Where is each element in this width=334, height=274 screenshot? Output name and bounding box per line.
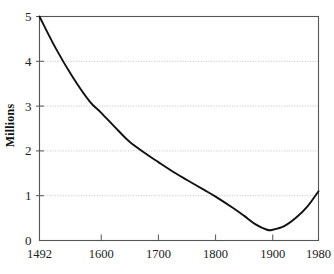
x-tick-label-1492: 1492 bbox=[27, 247, 52, 261]
x-ticks-group bbox=[40, 235, 319, 241]
chart-figure: Millions 149216001700180019001980 543210 bbox=[0, 0, 334, 274]
axes-frame bbox=[40, 17, 319, 241]
x-tick-label-1600: 1600 bbox=[89, 247, 114, 261]
y-tick-labels-group: 543210 bbox=[25, 9, 32, 248]
x-tick-label-1900: 1900 bbox=[260, 247, 285, 261]
y-tick-label-1: 1 bbox=[25, 188, 32, 203]
y-tick-label-5: 5 bbox=[25, 9, 32, 24]
x-tick-label-1980: 1980 bbox=[306, 247, 331, 261]
x-tick-label-1800: 1800 bbox=[203, 247, 228, 261]
chart-plot: 149216001700180019001980 543210 bbox=[0, 0, 334, 274]
data-curve-group bbox=[40, 17, 319, 231]
y-tick-label-2: 2 bbox=[25, 143, 32, 158]
x-tick-labels-group: 149216001700180019001980 bbox=[27, 247, 331, 261]
x-tick-label-1700: 1700 bbox=[146, 247, 171, 261]
y-tick-label-4: 4 bbox=[25, 54, 32, 69]
plot-frame bbox=[40, 17, 319, 241]
series-line-population bbox=[40, 17, 319, 231]
y-tick-label-0: 0 bbox=[25, 233, 32, 248]
y-tick-label-3: 3 bbox=[25, 99, 32, 114]
